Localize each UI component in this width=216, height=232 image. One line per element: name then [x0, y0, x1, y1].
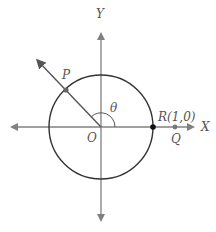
point-p-label: P	[61, 68, 71, 82]
unit-circle-diagram: Y X P θ O R(1,0) Q	[0, 0, 216, 232]
point-q	[173, 125, 178, 130]
point-p	[63, 87, 68, 92]
point-r	[150, 124, 156, 130]
y-axis-label: Y	[96, 7, 105, 21]
point-q-label: Q	[171, 132, 181, 146]
point-r-label: R(1,0)	[157, 110, 196, 124]
angle-label: θ	[110, 101, 118, 115]
origin-label: O	[87, 131, 97, 145]
x-axis-label: X	[200, 120, 210, 134]
